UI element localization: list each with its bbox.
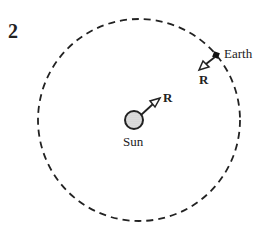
sun-force-arrow-icon: [141, 98, 160, 115]
sun-icon: [125, 111, 143, 129]
earth-force-arrow-icon: [199, 57, 215, 70]
sun-label: Sun: [123, 134, 144, 149]
earth-force-label: R: [199, 72, 209, 87]
sun-force-label: R: [163, 90, 173, 105]
orbit-diagram: R Sun Earth R: [0, 0, 278, 230]
earth-label: Earth: [224, 46, 253, 61]
